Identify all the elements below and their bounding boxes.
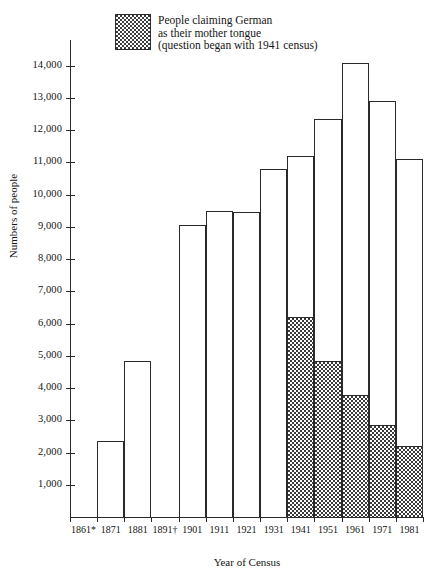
y-axis-tick xyxy=(66,98,75,99)
y-axis-tick xyxy=(66,66,75,67)
x-axis-tick-label: 1881 xyxy=(124,524,151,535)
y-axis-tick xyxy=(66,356,75,357)
bar-german-mother-tongue xyxy=(287,317,314,517)
bar-column xyxy=(124,40,151,517)
x-axis-tick-label: 1941 xyxy=(287,524,314,535)
bar-total xyxy=(179,225,206,517)
x-axis-tick xyxy=(70,517,71,522)
x-axis-tick xyxy=(287,517,288,522)
plot-area xyxy=(70,40,423,517)
x-axis-tick-label: 1931 xyxy=(260,524,287,535)
bar-column xyxy=(97,40,124,517)
x-axis-tick xyxy=(97,517,98,522)
legend-label-line-2: as their mother tongue xyxy=(158,27,318,40)
x-axis-tick xyxy=(396,517,397,522)
y-axis-tick-label: 6,000 xyxy=(4,318,62,329)
bar-german-mother-tongue xyxy=(342,395,369,517)
bar-german-mother-tongue xyxy=(314,361,341,517)
bar-column xyxy=(287,40,314,517)
y-axis-tick xyxy=(66,324,75,325)
x-axis-line xyxy=(70,517,424,518)
bar-column xyxy=(260,40,287,517)
y-axis-tick xyxy=(66,388,75,389)
y-axis-tick-label: 13,000 xyxy=(4,92,62,103)
bar-german-mother-tongue xyxy=(396,446,423,517)
x-axis-tick xyxy=(124,517,125,522)
y-axis-tick xyxy=(66,162,75,163)
y-axis-tick-label: 11,000 xyxy=(4,156,62,167)
y-axis-tick-label: 1,000 xyxy=(4,479,62,490)
y-axis-tick xyxy=(66,195,75,196)
y-axis-tick xyxy=(66,259,75,260)
bar-column xyxy=(70,40,97,517)
x-axis-tick xyxy=(314,517,315,522)
bar-column xyxy=(342,40,369,517)
y-axis-tick-label: 4,000 xyxy=(4,382,62,393)
x-axis-tick xyxy=(260,517,261,522)
y-axis-tick xyxy=(66,227,75,228)
bar-column xyxy=(233,40,260,517)
x-axis-tick-label: 1861* xyxy=(70,524,97,535)
x-axis-tick-label: 1871 xyxy=(97,524,124,535)
y-axis-tick-label: 14,000 xyxy=(4,60,62,71)
x-axis-tick xyxy=(151,517,152,522)
bar-column xyxy=(369,40,396,517)
x-axis-tick xyxy=(179,517,180,522)
bar-german-mother-tongue xyxy=(369,425,396,517)
bar-total xyxy=(124,361,151,517)
y-axis-tick xyxy=(66,291,75,292)
bar-column xyxy=(151,40,178,517)
x-axis-tick-label: 1981 xyxy=(396,524,423,535)
x-axis-title: Year of Census xyxy=(70,556,424,568)
bar-total xyxy=(97,441,124,517)
x-axis-tick-label: 1971 xyxy=(369,524,396,535)
x-axis-tick xyxy=(342,517,343,522)
y-axis-tick xyxy=(66,485,75,486)
y-axis-tick xyxy=(66,420,75,421)
x-axis-tick-label: 1901 xyxy=(179,524,206,535)
x-axis-tick xyxy=(233,517,234,522)
x-axis-tick-label: 1921 xyxy=(233,524,260,535)
census-bar-chart: People claiming German as their mother t… xyxy=(0,0,440,587)
bar-column xyxy=(179,40,206,517)
x-axis-tick xyxy=(369,517,370,522)
x-axis-tick xyxy=(423,517,424,522)
bar-column xyxy=(314,40,341,517)
bar-column xyxy=(206,40,233,517)
y-axis-tick-label: 3,000 xyxy=(4,414,62,425)
x-axis-tick-label: 1891† xyxy=(151,524,178,535)
legend-label-line-1: People claiming German xyxy=(158,14,318,27)
x-axis-tick-label: 1951 xyxy=(314,524,341,535)
bar-total xyxy=(233,212,260,517)
y-axis-tick-label: 12,000 xyxy=(4,124,62,135)
x-axis-tick-label: 1961 xyxy=(342,524,369,535)
y-axis-tick xyxy=(66,453,75,454)
bars-layer xyxy=(70,40,423,517)
y-axis-tick-label: 5,000 xyxy=(4,350,62,361)
bar-total xyxy=(206,211,233,517)
x-axis-tick xyxy=(206,517,207,522)
y-axis-tick-label: 9,000 xyxy=(4,221,62,232)
x-axis-tick-label: 1911 xyxy=(206,524,233,535)
y-axis-tick-label: 7,000 xyxy=(4,285,62,296)
y-axis-tick-label: 2,000 xyxy=(4,447,62,458)
bar-column xyxy=(396,40,423,517)
y-axis-tick-label: 10,000 xyxy=(4,189,62,200)
y-axis-tick-label: 8,000 xyxy=(4,253,62,264)
bar-total xyxy=(260,169,287,517)
y-axis-tick xyxy=(66,130,75,131)
y-axis-title: Numbers of people xyxy=(7,146,19,286)
